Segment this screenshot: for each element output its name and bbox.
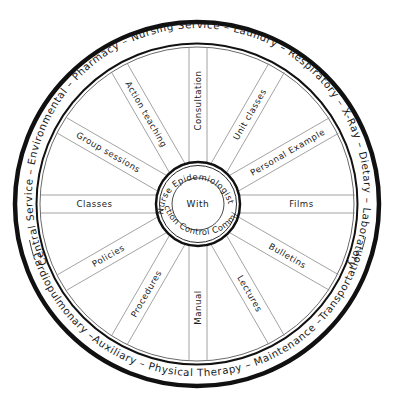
- spoke-edge-line: [239, 217, 339, 275]
- spoke-label: Films: [289, 199, 313, 209]
- spoke-edge-line: [211, 245, 269, 345]
- spoke-edge-line: [211, 64, 269, 164]
- spoke-label: Manual: [193, 290, 203, 324]
- spoke-label: Action teaching: [123, 80, 169, 150]
- spoke-label: Group sessions: [75, 130, 143, 175]
- spoke: Films: [240, 195, 355, 213]
- spoke-label: Policies: [90, 242, 126, 269]
- spoke-edge-line: [58, 217, 158, 275]
- spoke-edge-line: [58, 133, 158, 191]
- wheel-diagram: ConsultationUnit classesPersonal Example…: [0, 0, 395, 408]
- spoke-label: Personal Example: [249, 127, 327, 178]
- spoke-edge-line: [127, 245, 185, 345]
- spoke: Classes: [41, 195, 156, 213]
- center-label: With: [187, 199, 210, 209]
- spoke-label: Consultation: [193, 70, 203, 130]
- spoke: Consultation: [189, 47, 207, 162]
- spoke-label: Unit classes: [231, 87, 268, 142]
- spoke-edge-line: [127, 64, 185, 164]
- spoke-label: Classes: [77, 199, 113, 209]
- spoke-edge-line: [239, 133, 339, 191]
- wheel-svg: ConsultationUnit classesPersonal Example…: [0, 0, 395, 408]
- spoke: Manual: [189, 246, 207, 361]
